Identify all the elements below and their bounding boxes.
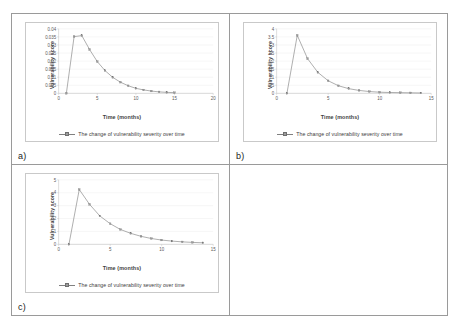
panel-cell-c: Vulnerability score 012345051015 Time (m… bbox=[12, 165, 230, 316]
chart-a: Vulnerability score 00.0050.010.0150.020… bbox=[25, 22, 219, 142]
chart-c: Vulnerability score 012345051015 Time (m… bbox=[25, 173, 219, 293]
figure-page: Vulnerability score 00.0050.010.0150.020… bbox=[0, 0, 460, 328]
svg-text:3: 3 bbox=[272, 43, 275, 48]
plot-area-b: Vulnerability score 00.511.522.533.54051… bbox=[244, 23, 436, 107]
plot-area-c: Vulnerability score 012345051015 bbox=[26, 174, 218, 258]
svg-text:1: 1 bbox=[54, 229, 57, 234]
svg-text:0: 0 bbox=[57, 96, 60, 101]
panel-letter-b: b) bbox=[236, 151, 244, 161]
legend-a: The change of vulnerability severity ove… bbox=[26, 131, 218, 137]
chart-canvas-c: 012345051015 bbox=[26, 174, 218, 258]
svg-text:0.01: 0.01 bbox=[48, 75, 57, 80]
svg-text:0: 0 bbox=[57, 247, 60, 252]
legend-label-c: The change of vulnerability severity ove… bbox=[78, 282, 184, 288]
svg-text:15: 15 bbox=[211, 247, 216, 252]
legend-b: The change of vulnerability severity ove… bbox=[244, 131, 436, 137]
chart-b: Vulnerability score 00.511.522.533.54051… bbox=[243, 22, 437, 142]
legend-marker-icon-a bbox=[59, 131, 75, 137]
x-axis-title-a: Time (months) bbox=[26, 114, 218, 120]
svg-text:5: 5 bbox=[96, 96, 99, 101]
panel-cell-empty bbox=[230, 165, 448, 316]
svg-text:0.005: 0.005 bbox=[45, 83, 57, 88]
legend-label-a: The change of vulnerability severity ove… bbox=[78, 131, 184, 137]
legend-marker-icon-c bbox=[59, 282, 75, 288]
svg-text:0: 0 bbox=[275, 96, 278, 101]
svg-text:0: 0 bbox=[54, 91, 57, 96]
panel-cell-a: Vulnerability score 00.0050.010.0150.020… bbox=[12, 14, 230, 165]
svg-text:0.04: 0.04 bbox=[48, 26, 57, 31]
svg-text:10: 10 bbox=[377, 96, 382, 101]
panel-letter-c: c) bbox=[18, 302, 26, 312]
chart-canvas-b: 00.511.522.533.54051015 bbox=[244, 23, 436, 107]
panel-cell-b: Vulnerability score 00.511.522.533.54051… bbox=[230, 14, 448, 165]
svg-text:0.035: 0.035 bbox=[45, 35, 57, 40]
chart-canvas-a: 00.0050.010.0150.020.0250.030.0350.04051… bbox=[26, 23, 218, 107]
svg-text:0: 0 bbox=[272, 91, 275, 96]
legend-label-b: The change of vulnerability severity ove… bbox=[296, 131, 402, 137]
svg-text:0.025: 0.025 bbox=[45, 51, 57, 56]
svg-text:20: 20 bbox=[211, 96, 216, 101]
svg-text:2: 2 bbox=[272, 59, 275, 64]
svg-text:0.5: 0.5 bbox=[268, 83, 275, 88]
svg-text:5: 5 bbox=[54, 177, 57, 182]
legend-c: The change of vulnerability severity ove… bbox=[26, 282, 218, 288]
svg-text:3: 3 bbox=[54, 203, 57, 208]
svg-text:2: 2 bbox=[54, 216, 57, 221]
svg-text:0: 0 bbox=[54, 242, 57, 247]
svg-text:5: 5 bbox=[327, 96, 330, 101]
svg-text:0.02: 0.02 bbox=[48, 59, 57, 64]
x-axis-title-b: Time (months) bbox=[244, 114, 436, 120]
plot-area-a: Vulnerability score 00.0050.010.0150.020… bbox=[26, 23, 218, 107]
svg-text:3.5: 3.5 bbox=[268, 35, 275, 40]
figure-grid: Vulnerability score 00.0050.010.0150.020… bbox=[11, 13, 448, 316]
svg-text:5: 5 bbox=[109, 247, 112, 252]
svg-text:10: 10 bbox=[159, 247, 164, 252]
svg-text:0.03: 0.03 bbox=[48, 43, 57, 48]
svg-text:4: 4 bbox=[272, 26, 275, 31]
svg-text:2.5: 2.5 bbox=[268, 51, 275, 56]
svg-text:1.5: 1.5 bbox=[268, 67, 275, 72]
svg-text:1: 1 bbox=[272, 75, 275, 80]
svg-text:15: 15 bbox=[429, 96, 434, 101]
x-axis-title-c: Time (months) bbox=[26, 265, 218, 271]
svg-text:10: 10 bbox=[133, 96, 138, 101]
legend-marker-icon-b bbox=[277, 131, 293, 137]
panel-letter-a: a) bbox=[18, 151, 26, 161]
svg-text:15: 15 bbox=[172, 96, 177, 101]
svg-text:4: 4 bbox=[54, 190, 57, 195]
svg-text:0.015: 0.015 bbox=[45, 67, 57, 72]
